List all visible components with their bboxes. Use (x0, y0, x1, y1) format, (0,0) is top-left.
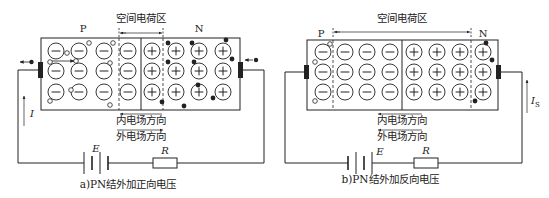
negative-ion (48, 84, 64, 100)
negative-ion (359, 44, 375, 60)
negative-ion (315, 44, 331, 60)
negative-ion (120, 63, 136, 79)
ion-grid (315, 44, 491, 100)
resistor (153, 158, 177, 168)
positive-ion (406, 84, 422, 100)
negative-ion (337, 84, 353, 100)
negative-ion (337, 64, 353, 80)
current-label: IS (530, 95, 540, 109)
electron-icon (230, 57, 235, 62)
negative-ion (359, 84, 375, 100)
electron-icon (490, 58, 495, 63)
hole-icon (69, 88, 74, 93)
positive-ion (475, 44, 491, 60)
current-label: I (29, 108, 35, 119)
caption: b)PN结外加反向电压 (341, 173, 439, 185)
battery-label: E (375, 146, 384, 157)
positive-ion (452, 44, 468, 60)
hole-icon (108, 103, 113, 108)
positive-ion (144, 84, 160, 100)
positive-ion (475, 64, 491, 80)
outer-field-label: 外电场方向 (116, 130, 166, 142)
positive-ion (429, 84, 445, 100)
resistor-label: R (160, 145, 169, 156)
left-electrode (304, 65, 309, 79)
battery-label: E (91, 143, 100, 154)
hole-icon (48, 99, 53, 104)
resistor-label: R (421, 145, 430, 156)
positive-ion (215, 84, 231, 100)
n-region-label: N (195, 23, 204, 34)
space-charge-region-label: 空间电荷区 (377, 12, 427, 24)
p-region-label: P (80, 23, 87, 34)
negative-ion (315, 84, 331, 100)
right-electrode (496, 65, 501, 79)
positive-ion (144, 63, 160, 79)
positive-ion (191, 63, 207, 79)
left-wire (18, 70, 84, 163)
hole-icon (87, 41, 92, 46)
inner-field-label: 内电场方向 (116, 114, 166, 126)
space-charge-region-label: 空间电荷区 (116, 12, 166, 24)
negative-ion (96, 43, 112, 59)
negative-ion (382, 64, 398, 80)
electron-icon (190, 41, 195, 46)
positive-ion (406, 64, 422, 80)
positive-ion (215, 63, 231, 79)
hole-icon (48, 60, 53, 65)
left-electrode (38, 62, 43, 78)
negative-ion (120, 43, 136, 59)
positive-ion (406, 44, 422, 60)
electron-icon (473, 99, 478, 104)
hole-icon (328, 42, 333, 47)
outer-field-label: 外电场方向 (377, 130, 427, 142)
right-electrode (238, 62, 243, 78)
electron-icon (211, 96, 216, 101)
electron-icon (254, 58, 258, 62)
electron-icon (160, 100, 165, 105)
negative-ion (71, 84, 87, 100)
electron-icon (224, 38, 229, 43)
positive-ion (191, 43, 207, 59)
hole-icon (108, 61, 113, 66)
positive-ion (452, 64, 468, 80)
ion-grid (48, 43, 231, 100)
negative-ion (96, 84, 112, 100)
negative-ion (382, 44, 398, 60)
hole-icon (111, 41, 116, 46)
hole-icon (313, 60, 318, 65)
n-region-label: N (479, 28, 488, 39)
positive-ion (429, 64, 445, 80)
left-wire (285, 72, 348, 163)
electron-icon (192, 60, 197, 65)
negative-ion (120, 84, 136, 100)
negative-ion (48, 43, 64, 59)
forward-bias-diagram: 空间电荷区 P N E R (18, 12, 264, 190)
negative-ion (382, 84, 398, 100)
inner-field-label: 内电场方向 (377, 114, 427, 126)
hole-icon (65, 51, 70, 56)
resistor (414, 158, 438, 168)
electron-icon (484, 41, 489, 46)
positive-ion (168, 63, 184, 79)
hole-icon (74, 59, 79, 64)
positive-ion (168, 84, 184, 100)
negative-ion (337, 44, 353, 60)
electron-icon (166, 41, 171, 46)
positive-ion (215, 43, 231, 59)
negative-ion (71, 63, 87, 79)
negative-ion (48, 63, 64, 79)
negative-ion (315, 64, 331, 80)
caption: a)PN结外加正向电压 (80, 178, 178, 190)
electron-icon (166, 60, 171, 65)
electron-icon (29, 60, 33, 64)
positive-ion (429, 44, 445, 60)
p-region-label: P (318, 28, 325, 39)
reverse-bias-diagram: 空间电荷区 P N E R IS 内电场方向 外电场方向 b)PN结外加反向电压 (285, 12, 540, 185)
positive-ion (144, 43, 160, 59)
electron-icon (196, 83, 201, 88)
pn-junction-figure: 空间电荷区 P N E R (0, 0, 549, 198)
positive-ion (475, 84, 491, 100)
hole-icon (313, 99, 318, 104)
negative-ion (71, 43, 87, 59)
